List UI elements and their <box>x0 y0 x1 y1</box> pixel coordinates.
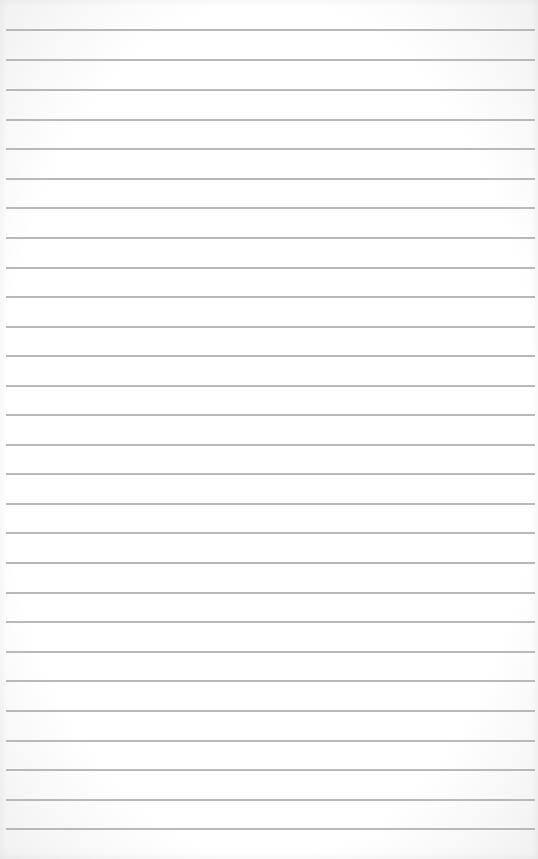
ruled-line <box>6 740 535 742</box>
ruled-line <box>6 562 535 564</box>
ruled-line <box>6 267 535 269</box>
ruled-line <box>6 503 535 505</box>
ruled-line <box>6 326 535 328</box>
ruled-line <box>6 710 535 712</box>
ruled-line <box>6 414 535 416</box>
ruled-line <box>6 680 535 682</box>
ruled-line <box>6 473 535 475</box>
ruled-line <box>6 178 535 180</box>
ruled-line <box>6 237 535 239</box>
ruled-line <box>6 592 535 594</box>
ruled-line <box>6 296 535 298</box>
ruled-line <box>6 59 535 61</box>
ruled-line <box>6 119 535 121</box>
lined-paper-sheet <box>0 0 538 859</box>
ruled-line <box>6 29 535 31</box>
ruled-line <box>6 651 535 653</box>
ruled-line <box>6 532 535 534</box>
ruled-line <box>6 207 535 209</box>
ruled-line <box>6 148 535 150</box>
ruled-line <box>6 385 535 387</box>
ruled-line <box>6 621 535 623</box>
ruled-line <box>6 828 535 830</box>
ruled-line <box>6 355 535 357</box>
ruled-line <box>6 769 535 771</box>
ruled-line <box>6 89 535 91</box>
ruled-line <box>6 799 535 801</box>
ruled-line <box>6 444 535 446</box>
